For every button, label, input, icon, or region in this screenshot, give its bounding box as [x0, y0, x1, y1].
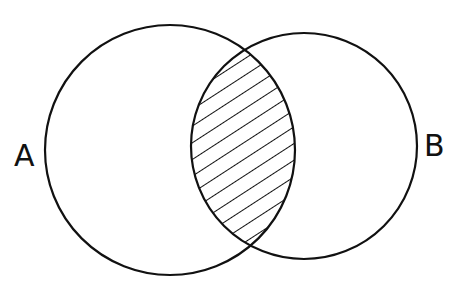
set-a-label: A [14, 141, 35, 171]
set-b-label: B [424, 131, 445, 161]
intersection-region [191, 33, 417, 259]
venn-diagram [0, 0, 456, 299]
